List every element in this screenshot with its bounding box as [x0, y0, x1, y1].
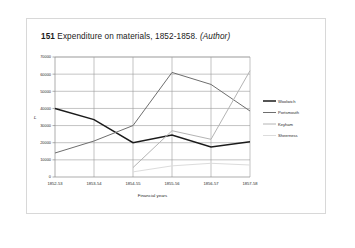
y-tick-label: 70000	[40, 54, 52, 59]
y-axis-ticks	[53, 57, 56, 177]
line-chart: 010000200003000040000500006000070000 185…	[27, 49, 327, 209]
y-tick-label: 40000	[40, 106, 52, 111]
series-line-woolwich	[55, 108, 250, 147]
chart-svg: 010000200003000040000500006000070000 185…	[27, 49, 327, 209]
x-tick-label: 1852-53	[47, 181, 63, 186]
series-line-portsmouth	[55, 72, 250, 153]
data-series-lines	[55, 71, 250, 172]
legend-label-woolwich: Woolwich	[278, 99, 296, 104]
y-tick-label: 30000	[40, 123, 52, 128]
y-tick-label: 10000	[40, 157, 52, 162]
figure-caption: 151 Expenditure on materials, 1852-1858.…	[41, 31, 315, 42]
x-tick-label: 1857-58	[242, 181, 258, 186]
y-tick-label: 20000	[40, 140, 52, 145]
x-tick-label: 1856-57	[203, 181, 219, 186]
figure-frame: 151 Expenditure on materials, 1852-1858.…	[26, 18, 326, 214]
legend-label-keyham: Keyham	[278, 122, 294, 127]
series-line-sheerness	[133, 163, 250, 172]
y-tick-label: 60000	[40, 72, 52, 77]
x-axis-tick-labels: 1852-531853-541854-551855-561856-571857-…	[47, 181, 258, 186]
x-axis-title: Financial years	[138, 193, 168, 198]
series-line-keyham	[133, 71, 250, 168]
category-gridlines	[94, 57, 250, 177]
caption-text: Expenditure on materials, 1852-1858.	[57, 32, 197, 41]
figure-number: 151	[41, 32, 55, 41]
legend-label-portsmouth: Portsmouth	[278, 110, 300, 115]
y-tick-label: 0	[49, 174, 52, 179]
y-axis-title: £	[34, 115, 37, 120]
caption-attribution: (Author)	[200, 32, 230, 41]
x-tick-label: 1855-56	[164, 181, 180, 186]
y-tick-label: 50000	[40, 89, 52, 94]
legend-label-sheerness: Sheerness	[278, 133, 298, 138]
x-tick-label: 1853-54	[86, 181, 102, 186]
x-tick-label: 1854-55	[125, 181, 141, 186]
y-axis-tick-labels: 010000200003000040000500006000070000	[40, 54, 52, 179]
chart-legend: WoolwichPortsmouthKeyhamSheerness	[263, 99, 300, 139]
